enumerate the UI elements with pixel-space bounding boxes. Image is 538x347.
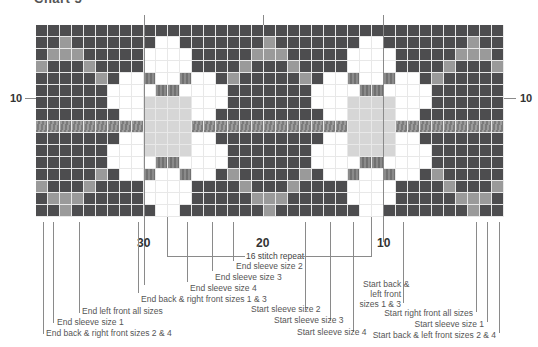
- stitch-cell: [96, 169, 107, 180]
- stitch-cell: [216, 61, 227, 72]
- stitch-cell: [156, 97, 167, 108]
- stitch-cell: [480, 61, 491, 72]
- stitch-cell: [252, 181, 263, 192]
- stitch-cell: [480, 49, 491, 60]
- stitch-cell: [300, 133, 311, 144]
- stitch-cell: [108, 37, 119, 48]
- stitch-cell: [264, 61, 275, 72]
- stitch-cell: [204, 109, 215, 120]
- stitch-cell: [492, 37, 503, 48]
- stitch-cell: [444, 85, 455, 96]
- stitch-cell: [72, 49, 83, 60]
- stitch-cell: [468, 37, 479, 48]
- stitch-cell: [192, 97, 203, 108]
- stitch-cell: [456, 145, 467, 156]
- stitch-cell: [240, 97, 251, 108]
- guide-line: [79, 222, 80, 313]
- stitch-cell: [180, 37, 191, 48]
- stitch-cell: [408, 49, 419, 60]
- stitch-cell: [132, 97, 143, 108]
- stitch-cell: [312, 61, 323, 72]
- stitch-cell: [180, 73, 191, 84]
- stitch-cell: [492, 169, 503, 180]
- stitch-cell: [72, 25, 83, 36]
- stitch-cell: [216, 85, 227, 96]
- stitch-cell: [84, 133, 95, 144]
- stitch-cell: [456, 205, 467, 216]
- stitch-cell: [324, 157, 335, 168]
- stitch-cell: [312, 145, 323, 156]
- stitch-cell: [396, 133, 407, 144]
- stitch-cell: [312, 193, 323, 204]
- stitch-cell: [420, 85, 431, 96]
- stitch-cell: [120, 37, 131, 48]
- stitch-cell: [216, 37, 227, 48]
- stitch-cell: [252, 205, 263, 216]
- stitch-cell: [36, 85, 47, 96]
- stitch-cell: [324, 37, 335, 48]
- stitch-cell: [456, 61, 467, 72]
- stitch-cell: [60, 25, 71, 36]
- stitch-cell: [288, 97, 299, 108]
- stitch-cell: [192, 157, 203, 168]
- stitch-cell: [240, 121, 251, 132]
- stitch-cell: [492, 145, 503, 156]
- stitch-cell: [420, 133, 431, 144]
- stitch-cell: [156, 25, 167, 36]
- stitch-cell: [204, 181, 215, 192]
- stitch-cell: [360, 181, 371, 192]
- stitch-cell: [444, 37, 455, 48]
- stitch-cell: [48, 97, 59, 108]
- repeat-bracket-bottom-right: [298, 256, 372, 257]
- stitch-cell: [108, 157, 119, 168]
- stitch-cell: [492, 97, 503, 108]
- stitch-cell: [168, 25, 179, 36]
- stitch-cell: [216, 145, 227, 156]
- stitch-cell: [216, 25, 227, 36]
- stitch-cell: [360, 37, 371, 48]
- stitch-cell: [72, 61, 83, 72]
- stitch-cell: [480, 145, 491, 156]
- stitch-cell: [252, 73, 263, 84]
- stitch-cell: [480, 25, 491, 36]
- stitch-cell: [288, 181, 299, 192]
- stitch-cell: [48, 181, 59, 192]
- stitch-cell: [168, 49, 179, 60]
- stitch-cell: [300, 181, 311, 192]
- stitch-cell: [228, 49, 239, 60]
- stitch-cell: [396, 169, 407, 180]
- stitch-cell: [480, 205, 491, 216]
- stitch-cell: [288, 49, 299, 60]
- stitch-cell: [168, 37, 179, 48]
- stitch-cell: [300, 61, 311, 72]
- stitch-cell: [468, 73, 479, 84]
- stitch-cell: [48, 145, 59, 156]
- stitch-cell: [204, 85, 215, 96]
- label-start-sleeve-size-4: Start sleeve size 4: [297, 327, 366, 337]
- stitch-cell: [336, 145, 347, 156]
- stitch-cell: [84, 97, 95, 108]
- stitch-cell: [264, 73, 275, 84]
- stitch-cell: [444, 181, 455, 192]
- stitch-cell: [84, 121, 95, 132]
- stitch-cell: [192, 169, 203, 180]
- stitch-cell: [444, 109, 455, 120]
- center-line: [263, 15, 264, 25]
- stitch-cell: [348, 193, 359, 204]
- stitch-cell: [324, 97, 335, 108]
- stitch-cell: [84, 73, 95, 84]
- stitch-cell: [468, 205, 479, 216]
- stitch-cell: [204, 25, 215, 36]
- stitch-cell: [204, 61, 215, 72]
- stitch-cell: [120, 133, 131, 144]
- stitch-cell: [276, 37, 287, 48]
- stitch-cell: [468, 121, 479, 132]
- stitch-cell: [360, 193, 371, 204]
- stitch-cell: [264, 205, 275, 216]
- stitch-cell: [84, 49, 95, 60]
- stitch-cell: [360, 25, 371, 36]
- stitch-cell: [360, 109, 371, 120]
- row-tick-right: [504, 98, 516, 99]
- stitch-cell: [204, 73, 215, 84]
- stitch-cell: [120, 73, 131, 84]
